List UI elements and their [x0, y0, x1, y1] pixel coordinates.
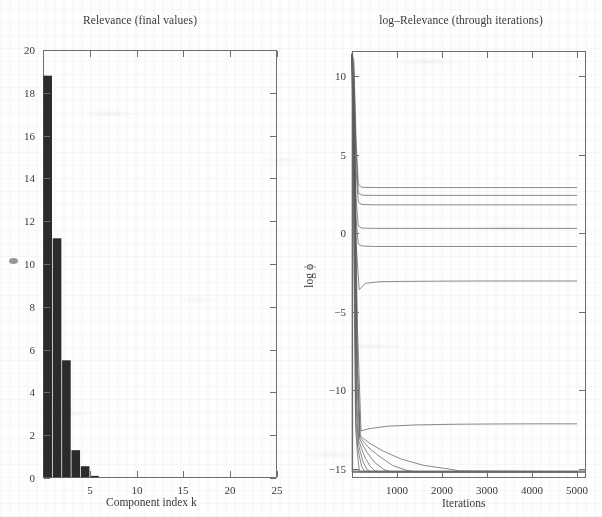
axis-tick — [270, 221, 276, 222]
axis-tick — [183, 51, 184, 57]
y-tick-label: 0 — [30, 472, 36, 484]
axis-tick — [90, 51, 91, 57]
y-tick-label: 10 — [24, 258, 35, 270]
axis-tick — [44, 136, 50, 137]
axis-tick — [442, 52, 443, 58]
figure-root: Relevance (final values) 024681012141618… — [0, 0, 602, 517]
axis-tick — [183, 471, 184, 477]
axis-tick — [44, 435, 50, 436]
axis-tick — [353, 390, 359, 391]
left-panel: Relevance (final values) 024681012141618… — [0, 10, 300, 515]
axis-tick — [270, 93, 276, 94]
right-plot-frame — [352, 51, 586, 478]
y-tick-label: 6 — [30, 344, 36, 356]
axis-tick — [270, 307, 276, 308]
y-tick-label: 2 — [30, 429, 36, 441]
axis-tick — [270, 50, 276, 51]
axis-tick — [397, 471, 398, 477]
right-y-axis-label: log ϕ — [303, 264, 315, 288]
x-tick-label: 25 — [272, 484, 283, 496]
axis-tick — [270, 350, 276, 351]
y-tick-label: 10 — [335, 70, 346, 82]
y-tick-label: 8 — [30, 301, 36, 313]
right-panel-title: log–Relevance (through iterations) — [310, 14, 602, 26]
y-tick-label: 14 — [24, 172, 35, 184]
diamond-marker-icon — [9, 258, 18, 264]
axis-tick — [137, 471, 138, 477]
y-tick-label: 4 — [30, 386, 36, 398]
axis-tick — [577, 471, 578, 477]
right-panel: log–Relevance (through iterations) 1050−… — [300, 10, 602, 515]
axis-tick — [577, 52, 578, 58]
left-plot-frame — [43, 50, 277, 478]
axis-tick — [270, 435, 276, 436]
axis-tick — [579, 76, 585, 77]
x-tick-label: 4000 — [521, 484, 543, 496]
axis-tick — [137, 51, 138, 57]
axis-tick — [397, 52, 398, 58]
x-tick-label: 5 — [87, 484, 93, 496]
axis-tick — [44, 178, 50, 179]
axis-tick — [90, 471, 91, 477]
axis-tick — [270, 392, 276, 393]
axis-tick — [353, 233, 359, 234]
axis-tick — [579, 233, 585, 234]
y-tick-label: 0 — [341, 227, 347, 239]
axis-tick — [353, 469, 359, 470]
axis-tick — [44, 350, 50, 351]
axis-tick — [230, 51, 231, 57]
x-tick-label: 2000 — [431, 484, 453, 496]
axis-tick — [44, 478, 50, 479]
x-tick-label: 1000 — [386, 484, 408, 496]
axis-tick — [487, 52, 488, 58]
x-tick-label: 15 — [178, 484, 189, 496]
axis-tick — [277, 51, 278, 57]
y-tick-label: 20 — [24, 44, 35, 56]
y-tick-label: 5 — [341, 149, 347, 161]
x-tick-label: 10 — [132, 484, 143, 496]
axis-tick — [532, 52, 533, 58]
x-tick-label: 3000 — [476, 484, 498, 496]
axis-tick — [44, 264, 50, 265]
axis-tick — [579, 155, 585, 156]
axis-tick — [44, 307, 50, 308]
y-tick-label: −5 — [334, 306, 346, 318]
axis-tick — [270, 136, 276, 137]
y-tick-label: 12 — [24, 215, 35, 227]
axis-tick — [532, 471, 533, 477]
left-x-axis-label: Component index k — [106, 496, 197, 508]
axis-tick — [44, 50, 50, 51]
axis-tick — [579, 469, 585, 470]
y-tick-label: 18 — [24, 87, 35, 99]
right-x-axis-label: Iterations — [442, 497, 485, 509]
y-tick-label: 16 — [24, 130, 35, 142]
axis-tick — [230, 471, 231, 477]
axis-tick — [44, 221, 50, 222]
axis-tick — [270, 478, 276, 479]
axis-tick — [353, 312, 359, 313]
x-tick-label: 20 — [225, 484, 236, 496]
axis-tick — [44, 93, 50, 94]
y-tick-label: −10 — [329, 384, 346, 396]
axis-tick — [353, 76, 359, 77]
axis-tick — [487, 471, 488, 477]
y-tick-label: −15 — [329, 463, 346, 475]
x-tick-label: 5000 — [566, 484, 588, 496]
axis-tick — [270, 178, 276, 179]
left-panel-title: Relevance (final values) — [0, 14, 290, 26]
axis-tick — [579, 390, 585, 391]
axis-tick — [353, 155, 359, 156]
axis-tick — [579, 312, 585, 313]
axis-tick — [270, 264, 276, 265]
axis-tick — [442, 471, 443, 477]
axis-tick — [277, 471, 278, 477]
axis-tick — [44, 392, 50, 393]
